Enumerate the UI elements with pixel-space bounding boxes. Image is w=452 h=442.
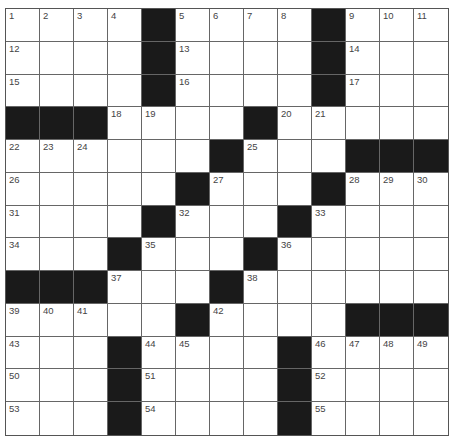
crossword-cell[interactable] [108,75,142,108]
crossword-cell[interactable] [176,402,210,435]
crossword-cell[interactable] [142,140,176,173]
crossword-cell[interactable] [108,140,142,173]
crossword-cell[interactable] [142,173,176,206]
crossword-cell[interactable]: 51 [142,369,176,402]
crossword-cell[interactable]: 44 [142,337,176,370]
crossword-cell[interactable] [142,271,176,304]
crossword-cell[interactable]: 4 [108,9,142,42]
crossword-cell[interactable] [108,206,142,239]
crossword-cell[interactable]: 39 [6,304,40,337]
crossword-cell[interactable]: 32 [176,206,210,239]
crossword-cell[interactable]: 5 [176,9,210,42]
crossword-cell[interactable]: 24 [74,140,108,173]
crossword-cell[interactable]: 11 [414,9,448,42]
crossword-cell[interactable] [176,271,210,304]
crossword-cell[interactable] [380,271,414,304]
crossword-cell[interactable] [346,206,380,239]
crossword-cell[interactable]: 25 [244,140,278,173]
crossword-cell[interactable]: 8 [278,9,312,42]
crossword-cell[interactable] [108,42,142,75]
crossword-cell[interactable]: 28 [346,173,380,206]
crossword-cell[interactable] [414,206,448,239]
crossword-cell[interactable]: 3 [74,9,108,42]
crossword-cell[interactable] [278,75,312,108]
crossword-cell[interactable] [244,173,278,206]
crossword-cell[interactable] [244,206,278,239]
crossword-cell[interactable] [210,337,244,370]
crossword-cell[interactable] [74,75,108,108]
crossword-cell[interactable] [380,238,414,271]
crossword-cell[interactable]: 49 [414,337,448,370]
crossword-cell[interactable]: 10 [380,9,414,42]
crossword-cell[interactable] [210,369,244,402]
crossword-cell[interactable]: 27 [210,173,244,206]
crossword-cell[interactable]: 6 [210,9,244,42]
crossword-cell[interactable]: 35 [142,238,176,271]
crossword-cell[interactable] [108,173,142,206]
crossword-cell[interactable]: 45 [176,337,210,370]
crossword-cell[interactable] [414,75,448,108]
crossword-cell[interactable]: 12 [6,42,40,75]
crossword-cell[interactable]: 17 [346,75,380,108]
crossword-cell[interactable] [312,238,346,271]
crossword-cell[interactable] [380,369,414,402]
crossword-cell[interactable] [312,271,346,304]
crossword-cell[interactable] [108,304,142,337]
crossword-cell[interactable]: 43 [6,337,40,370]
crossword-cell[interactable] [74,238,108,271]
crossword-cell[interactable] [176,238,210,271]
crossword-cell[interactable]: 42 [210,304,244,337]
crossword-cell[interactable] [380,206,414,239]
crossword-cell[interactable] [142,304,176,337]
crossword-cell[interactable]: 23 [40,140,74,173]
crossword-cell[interactable] [40,75,74,108]
crossword-cell[interactable]: 37 [108,271,142,304]
crossword-cell[interactable] [278,173,312,206]
crossword-cell[interactable]: 9 [346,9,380,42]
crossword-cell[interactable] [74,206,108,239]
crossword-cell[interactable]: 31 [6,206,40,239]
crossword-cell[interactable]: 34 [6,238,40,271]
crossword-cell[interactable]: 40 [40,304,74,337]
crossword-cell[interactable] [74,337,108,370]
crossword-cell[interactable]: 38 [244,271,278,304]
crossword-cell[interactable] [380,402,414,435]
crossword-cell[interactable] [244,42,278,75]
crossword-cell[interactable] [244,402,278,435]
crossword-cell[interactable] [210,402,244,435]
crossword-cell[interactable] [414,42,448,75]
crossword-cell[interactable] [176,140,210,173]
crossword-cell[interactable] [40,369,74,402]
crossword-cell[interactable]: 20 [278,107,312,140]
crossword-cell[interactable] [74,402,108,435]
crossword-cell[interactable]: 50 [6,369,40,402]
crossword-cell[interactable] [414,271,448,304]
crossword-cell[interactable] [210,75,244,108]
crossword-cell[interactable]: 36 [278,238,312,271]
crossword-cell[interactable]: 55 [312,402,346,435]
crossword-cell[interactable]: 16 [176,75,210,108]
crossword-cell[interactable]: 29 [380,173,414,206]
crossword-cell[interactable] [346,238,380,271]
crossword-cell[interactable]: 1 [6,9,40,42]
crossword-cell[interactable] [244,304,278,337]
crossword-cell[interactable] [74,42,108,75]
crossword-cell[interactable] [380,75,414,108]
crossword-cell[interactable] [414,402,448,435]
crossword-cell[interactable]: 13 [176,42,210,75]
crossword-cell[interactable] [244,75,278,108]
crossword-cell[interactable] [380,42,414,75]
crossword-cell[interactable] [210,238,244,271]
crossword-cell[interactable] [278,140,312,173]
crossword-cell[interactable] [278,42,312,75]
crossword-cell[interactable]: 19 [142,107,176,140]
crossword-cell[interactable]: 7 [244,9,278,42]
crossword-cell[interactable] [312,304,346,337]
crossword-cell[interactable]: 30 [414,173,448,206]
crossword-cell[interactable]: 2 [40,9,74,42]
crossword-cell[interactable] [346,369,380,402]
crossword-cell[interactable]: 53 [6,402,40,435]
crossword-cell[interactable]: 18 [108,107,142,140]
crossword-cell[interactable] [346,271,380,304]
crossword-cell[interactable] [278,304,312,337]
